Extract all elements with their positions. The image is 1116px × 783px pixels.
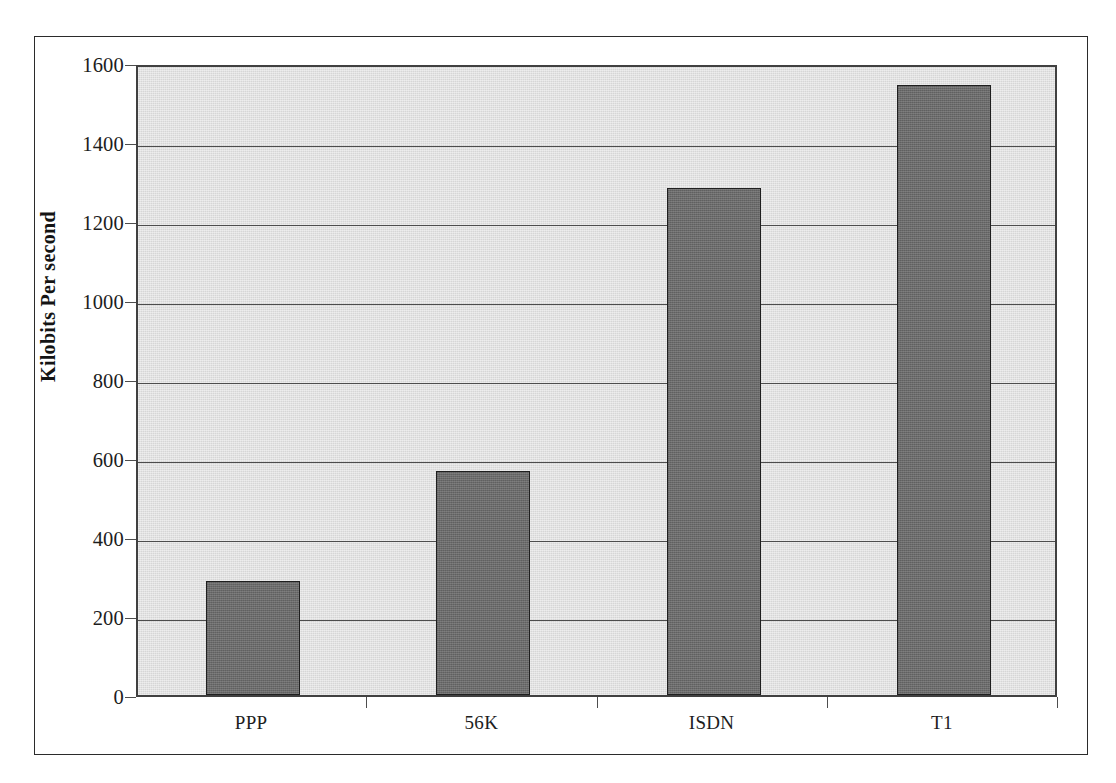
y-tick-label-400: 400	[54, 529, 124, 550]
x-axis-tick-marks	[136, 697, 1057, 709]
bar-isdn	[667, 188, 761, 695]
y-tick-mark-0	[125, 697, 136, 698]
y-tick-mark-400	[125, 539, 136, 540]
y-tick-mark-1600	[125, 65, 136, 66]
y-tick-label-1200: 1200	[54, 213, 124, 234]
x-tick-label-isdn: ISDN	[689, 712, 735, 734]
y-tick-mark-1200	[125, 223, 136, 224]
x-tick-mark-1	[366, 697, 367, 708]
x-tick-label-t1: T1	[931, 712, 953, 734]
y-axis-tick-labels: 02004006008001000120014001600	[46, 65, 124, 697]
bar-t1	[897, 85, 991, 695]
x-tick-mark-4	[1057, 697, 1058, 708]
bar-ppp	[206, 581, 300, 695]
bar-56k	[436, 471, 530, 695]
y-tick-label-0: 0	[54, 687, 124, 708]
x-tick-label-ppp: PPP	[235, 712, 268, 734]
y-tick-mark-200	[125, 618, 136, 619]
x-axis-tick-labels: PPP56KISDNT1	[136, 712, 1057, 742]
x-tick-mark-3	[827, 697, 828, 708]
y-tick-mark-1000	[125, 302, 136, 303]
x-tick-mark-2	[597, 697, 598, 708]
bar-chart: Kilobits Per second 02004006008001000120…	[0, 0, 1116, 783]
y-tick-label-1000: 1000	[54, 292, 124, 313]
y-tick-label-1400: 1400	[54, 134, 124, 155]
y-axis-tick-marks	[124, 65, 136, 697]
y-tick-label-1600: 1600	[54, 55, 124, 76]
x-tick-label-56k: 56K	[465, 712, 499, 734]
y-tick-mark-1400	[125, 144, 136, 145]
y-tick-mark-600	[125, 460, 136, 461]
y-tick-label-800: 800	[54, 371, 124, 392]
y-tick-label-600: 600	[54, 450, 124, 471]
y-tick-label-200: 200	[54, 608, 124, 629]
plot-area	[136, 65, 1057, 697]
y-tick-mark-800	[125, 381, 136, 382]
